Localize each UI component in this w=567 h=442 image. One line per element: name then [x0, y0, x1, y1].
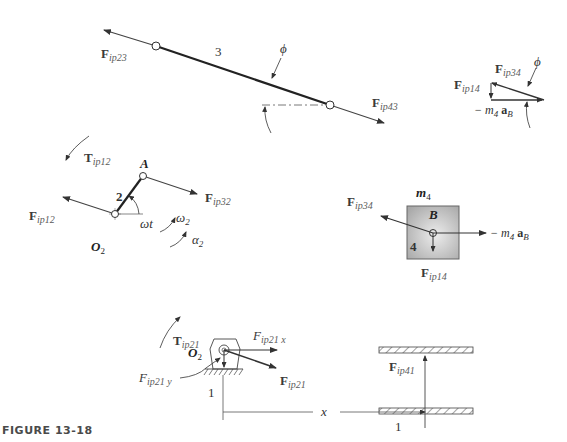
link-3 — [104, 30, 384, 133]
label-Fip21: Fip21 — [280, 374, 306, 387]
label-mass-m4: m4 — [416, 186, 431, 199]
label-omega-2: ω2 — [176, 211, 190, 224]
phi-leader-arrow — [272, 58, 281, 78]
label-link-3-number: 3 — [215, 45, 222, 58]
label-Fip32: Fip32 — [205, 191, 231, 204]
label-Fip23: Fip23 — [101, 47, 127, 60]
pin-A-circle — [140, 173, 147, 180]
label-Fip43: Fip43 — [372, 96, 398, 109]
label-Fip41: Fip41 — [389, 360, 415, 373]
label-ground-number-left: 1 — [208, 386, 215, 399]
label-ground-pivot-O2: O2 — [188, 346, 202, 359]
label-Fip12: Fip12 — [29, 209, 55, 222]
omega-t-arc-arrow — [129, 196, 139, 214]
label-omega-t: ωt — [140, 217, 153, 230]
label-pin-A: A — [140, 157, 149, 170]
angle-arc-arrow — [526, 102, 530, 128]
label-block-inertia: − m4 aB — [490, 227, 529, 239]
guide-rail-bottom — [379, 408, 473, 414]
label-triangle-Fip34: Fip34 — [495, 62, 521, 75]
pin-B-circle — [326, 101, 334, 109]
label-ground-number-right: 1 — [395, 420, 402, 433]
figure-caption: FIGURE 13-18 — [2, 424, 93, 437]
label-pivot-O2: O2 — [91, 240, 105, 253]
label-Fip21x: Fip21 x — [253, 329, 286, 342]
label-phi: ϕ — [280, 42, 287, 55]
ground-link-1 — [160, 317, 473, 428]
guide-rail-top — [379, 347, 473, 353]
label-Fip21y: Fip21 y — [139, 371, 172, 384]
label-block-Fip34: Fip34 — [347, 195, 373, 208]
angle-arc-arrow — [265, 107, 271, 133]
pin-A-circle — [152, 42, 160, 50]
alpha-arc-arrow — [170, 232, 186, 247]
pivot-O2-circle — [112, 211, 119, 218]
label-point-B: B — [429, 208, 438, 221]
phi-leader-arrow — [528, 68, 536, 86]
label-block-Fip14: Fip14 — [421, 266, 447, 279]
label-triangle-Fip14: Fip14 — [454, 78, 480, 91]
label-link-4-number: 4 — [410, 240, 417, 253]
label-x-dimension: x — [321, 405, 327, 418]
label-triangle-phi: ϕ — [534, 55, 541, 68]
label-link-2-number: 2 — [116, 190, 123, 203]
label-Tip12: Tip12 — [84, 151, 110, 164]
label-alpha-2: α2 — [192, 233, 203, 246]
omega-arc-arrow — [160, 218, 175, 232]
label-triangle-inertia: − m4 aB — [474, 104, 513, 116]
